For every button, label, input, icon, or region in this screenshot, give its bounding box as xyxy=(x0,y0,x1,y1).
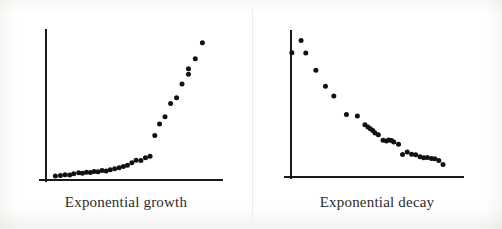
data-point xyxy=(344,112,349,117)
growth-plot-svg xyxy=(0,0,252,188)
data-point xyxy=(400,152,405,157)
data-point xyxy=(289,50,294,55)
data-point xyxy=(303,51,308,56)
data-point xyxy=(63,172,68,177)
decay-data-points xyxy=(289,38,445,167)
data-point xyxy=(186,66,191,71)
data-point xyxy=(148,154,153,159)
data-point xyxy=(134,158,139,163)
panel-exponential-decay: Exponential decay xyxy=(252,0,502,229)
data-point xyxy=(313,68,318,73)
data-point xyxy=(299,38,304,43)
data-point xyxy=(168,101,173,106)
data-point xyxy=(125,163,130,168)
data-point xyxy=(143,155,148,160)
data-point xyxy=(331,93,336,98)
data-point xyxy=(441,162,446,167)
growth-data-points xyxy=(53,40,205,178)
data-point xyxy=(391,139,396,144)
data-point xyxy=(355,113,360,118)
data-point xyxy=(396,142,401,147)
data-point xyxy=(193,56,198,61)
data-point xyxy=(405,149,410,154)
decay-plot-svg xyxy=(252,0,502,188)
panel-exponential-growth: Exponential growth xyxy=(0,0,252,229)
data-point xyxy=(112,166,117,171)
data-point xyxy=(413,152,418,157)
data-point xyxy=(376,132,381,137)
data-point xyxy=(323,84,328,89)
data-point xyxy=(174,95,179,100)
scatter-plot-growth xyxy=(0,0,252,188)
data-point xyxy=(157,121,162,126)
data-point xyxy=(186,72,191,77)
caption-exponential-decay: Exponential decay xyxy=(252,192,502,212)
figure-canvas: Exponential growth Exponential decay xyxy=(0,0,502,229)
data-point xyxy=(71,171,76,176)
caption-exponential-growth: Exponential growth xyxy=(0,192,252,212)
data-point xyxy=(152,133,157,138)
data-point xyxy=(200,40,205,45)
data-point xyxy=(138,158,143,163)
data-point xyxy=(53,174,58,179)
scatter-plot-decay xyxy=(252,0,502,188)
data-point xyxy=(117,165,122,170)
data-point xyxy=(58,173,63,178)
data-point xyxy=(180,82,185,87)
data-point xyxy=(436,158,441,163)
data-point xyxy=(129,160,134,165)
data-point xyxy=(108,167,113,172)
data-point xyxy=(163,114,168,119)
